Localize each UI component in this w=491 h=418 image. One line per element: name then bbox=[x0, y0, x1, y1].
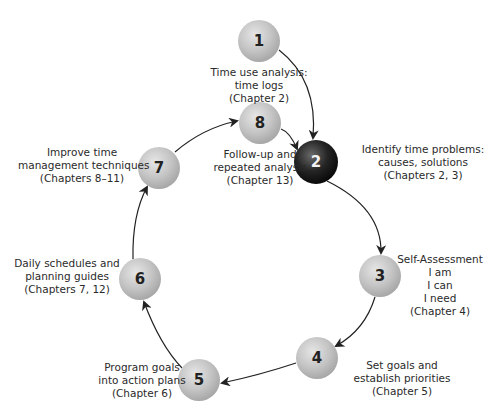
node-3-label-line: I can bbox=[394, 279, 486, 292]
node-6-number: 6 bbox=[119, 258, 161, 300]
arrow-3-to-4 bbox=[336, 297, 375, 346]
node-5-label-line: Program goals bbox=[90, 361, 194, 374]
node-3-label: Self-Assessment I am I can I need (Chapt… bbox=[394, 253, 486, 318]
node-1-label-line: (Chapter 2) bbox=[199, 92, 319, 105]
cycle-diagram bbox=[0, 0, 491, 418]
node-5-label-line: (Chapter 6) bbox=[90, 387, 194, 400]
node-1-label-line: time logs bbox=[199, 79, 319, 92]
node-5-label-line: into action plans bbox=[90, 374, 194, 387]
node-6-label: Daily schedules and planning guides (Cha… bbox=[12, 257, 122, 296]
node-8-label: Follow-up and repeated analysis (Chapter… bbox=[205, 148, 315, 187]
node-5-label: Program goals into action plans (Chapter… bbox=[90, 361, 194, 400]
arrow-2-to-3 bbox=[327, 181, 381, 253]
node-3-label-line: Self-Assessment bbox=[394, 253, 486, 266]
node-1-number: 1 bbox=[238, 20, 280, 62]
node-2-label-line: causes, solutions bbox=[355, 156, 491, 169]
node-8-label-line: (Chapter 13) bbox=[205, 174, 315, 187]
node-4-label: Set goals and establish priorities (Chap… bbox=[342, 359, 462, 398]
node-8-number: 8 bbox=[239, 102, 281, 144]
node-7-label-line: Improve time bbox=[18, 146, 146, 159]
node-7-label: Improve time management techniques (Chap… bbox=[18, 146, 146, 185]
node-4-label-line: establish priorities bbox=[342, 372, 462, 385]
node-7-label-line: (Chapters 8–11) bbox=[18, 172, 146, 185]
node-6-label-line: planning guides bbox=[12, 270, 122, 283]
node-4-label-line: (Chapter 5) bbox=[342, 385, 462, 398]
arrow-6-to-7 bbox=[133, 187, 147, 259]
node-2-label-line: (Chapters 2, 3) bbox=[355, 169, 491, 182]
node-3-label-line: (Chapter 4) bbox=[394, 305, 486, 318]
arrow-4-to-5 bbox=[222, 363, 296, 383]
node-4-number: 4 bbox=[296, 337, 338, 379]
node-3-label-line: I am bbox=[394, 266, 486, 279]
node-2-label-line: Identify time problems: bbox=[355, 143, 491, 156]
node-1-label-line: Time use analysis: bbox=[199, 66, 319, 79]
node-2-label: Identify time problems: causes, solution… bbox=[355, 143, 491, 182]
node-8-label-line: Follow-up and bbox=[205, 148, 315, 161]
node-3-label-line: I need bbox=[394, 292, 486, 305]
arrow-5-to-6 bbox=[144, 302, 182, 368]
node-7-label-line: management techniques bbox=[18, 159, 146, 172]
node-1-label: Time use analysis: time logs (Chapter 2) bbox=[199, 66, 319, 105]
node-4-label-line: Set goals and bbox=[342, 359, 462, 372]
node-8-label-line: repeated analysis bbox=[205, 161, 315, 174]
node-6-label-line: (Chapters 7, 12) bbox=[12, 283, 122, 296]
node-6-label-line: Daily schedules and bbox=[12, 257, 122, 270]
